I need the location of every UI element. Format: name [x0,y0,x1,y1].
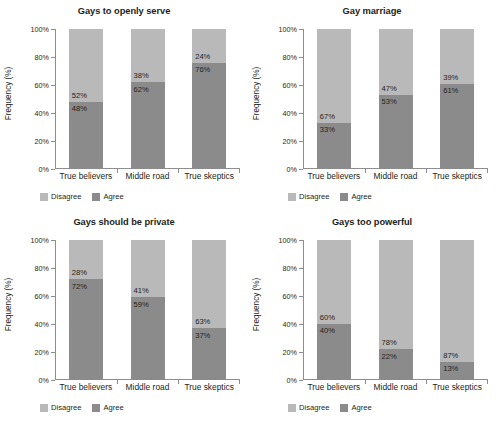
bar-segment-agree[interactable] [131,82,165,169]
legend-item-agree[interactable]: Agree [92,403,123,412]
chart-panel-2: Gay marriageFrequency (%)0%20%40%60%80%1… [248,0,496,211]
stacked-bar[interactable]: 28%72% [69,240,103,380]
y-axis-tick-label: 20% [35,137,49,146]
bar-segment-disagree[interactable] [317,240,351,324]
chart-grid: Gays to openly serveFrequency (%)0%20%40… [0,0,496,422]
bar-value-label-disagree: 67% [320,113,335,121]
y-axis-tick-label: 40% [283,320,297,329]
bar-segment-agree[interactable] [69,279,103,380]
legend-item-disagree[interactable]: Disagree [288,192,329,201]
legend-item-disagree[interactable]: Disagree [40,192,81,201]
stacked-bar[interactable]: 63%37% [192,240,226,380]
plot-area: 0%20%40%60%80%100%True believersMiddle r… [303,29,488,169]
stacked-bar[interactable]: 78%22% [379,240,413,380]
legend-label: Agree [351,192,371,201]
x-axis-category-label: True believers [55,171,117,181]
bar-value-label-disagree: 47% [382,85,397,93]
bar-value-label-disagree: 24% [195,53,210,61]
y-axis-tick-label: 60% [283,81,297,90]
stacked-bar[interactable]: 41%59% [131,240,165,380]
chart-title: Gays too powerful [248,217,496,227]
y-axis-tick-label: 20% [283,137,297,146]
bar-value-label-agree: 53% [382,98,397,106]
chart-panel-3: Gays should be privateFrequency (%)0%20%… [0,211,248,422]
bar-value-label-agree: 13% [443,365,458,373]
y-axis-label-text: Frequency (%) [253,66,262,120]
stacked-bar[interactable]: 38%62% [131,29,165,169]
bar-segment-disagree[interactable] [192,240,226,328]
bar-segment-disagree[interactable] [317,29,351,123]
bar-value-label-agree: 33% [320,126,335,134]
legend-item-disagree[interactable]: Disagree [288,403,329,412]
y-axis-tick-label: 60% [35,81,49,90]
stacked-bar[interactable]: 67%33% [317,29,351,169]
y-axis-tick-label: 40% [35,320,49,329]
bar-segment-agree[interactable] [192,63,226,169]
plot-area: 0%20%40%60%80%100%True believersMiddle r… [303,240,488,380]
x-axis-category-label: Middle road [365,382,427,392]
bar-segment-disagree[interactable] [379,240,413,349]
legend-item-agree[interactable]: Agree [340,403,371,412]
y-axis-label-text: Frequency (%) [5,277,14,331]
legend-item-agree[interactable]: Agree [340,192,371,201]
bar-value-label-agree: 48% [72,105,87,113]
legend-swatch-agree [92,404,100,412]
chart-legend: DisagreeAgree [288,403,378,412]
x-axis-category-label: Middle road [365,171,427,181]
legend-item-disagree[interactable]: Disagree [40,403,81,412]
chart-title: Gays to openly serve [0,6,248,16]
stacked-bar[interactable]: 39%61% [440,29,474,169]
x-axis-category-label: True skeptics [426,171,488,181]
stacked-bar[interactable]: 52%48% [69,29,103,169]
legend-item-agree[interactable]: Agree [92,192,123,201]
y-axis-tick [299,169,303,170]
bar-value-label-disagree: 41% [134,287,149,295]
bar-group: 67%33%47%53%39%61% [303,29,488,169]
legend-swatch-agree [92,193,100,201]
bar-value-label-agree: 72% [72,283,87,291]
y-axis-label-text: Frequency (%) [5,66,14,120]
bar-value-label-agree: 59% [134,301,149,309]
legend-swatch-agree [340,404,348,412]
bar-value-label-disagree: 63% [195,318,210,326]
bar-segment-disagree[interactable] [440,240,474,362]
chart-title: Gays should be private [0,217,248,227]
stacked-bar[interactable]: 24%76% [192,29,226,169]
y-axis-tick-label: 20% [35,348,49,357]
x-axis-category-label: Middle road [117,382,179,392]
bar-group: 52%48%38%62%24%76% [55,29,240,169]
chart-panel-1: Gays to openly serveFrequency (%)0%20%40… [0,0,248,211]
y-axis-tick-label: 0% [287,376,297,385]
legend-label: Disagree [299,403,329,412]
x-axis-category-label: True skeptics [178,382,240,392]
legend-label: Agree [351,403,371,412]
bar-value-label-agree: 40% [320,327,335,335]
stacked-bar[interactable]: 60%40% [317,240,351,380]
legend-label: Agree [103,192,123,201]
bar-group: 60%40%78%22%87%13% [303,240,488,380]
x-axis-category-label: Middle road [117,171,179,181]
stacked-bar[interactable]: 47%53% [379,29,413,169]
bar-value-label-disagree: 60% [320,314,335,322]
legend-swatch-disagree [40,193,48,201]
bar-segment-agree[interactable] [440,84,474,169]
y-axis-tick [299,380,303,381]
y-axis-label: Frequency (%) [250,38,264,148]
bar-segment-agree[interactable] [131,297,165,380]
bar-value-label-disagree: 39% [443,74,458,82]
bar-group: 28%72%41%59%63%37% [55,240,240,380]
y-axis-tick-label: 40% [35,109,49,118]
legend-swatch-disagree [288,404,296,412]
legend-label: Disagree [51,403,81,412]
chart-title: Gay marriage [248,6,496,16]
stacked-bar[interactable]: 87%13% [440,240,474,380]
y-axis-tick [51,380,55,381]
bar-value-label-disagree: 28% [72,269,87,277]
bar-value-label-agree: 22% [382,353,397,361]
legend-label: Disagree [51,192,81,201]
y-axis-tick-label: 60% [35,292,49,301]
y-axis-label-text: Frequency (%) [253,277,262,331]
y-axis-tick-label: 80% [283,264,297,273]
plot-area: 0%20%40%60%80%100%True believersMiddle r… [55,29,240,169]
chart-legend: DisagreeAgree [288,192,378,201]
